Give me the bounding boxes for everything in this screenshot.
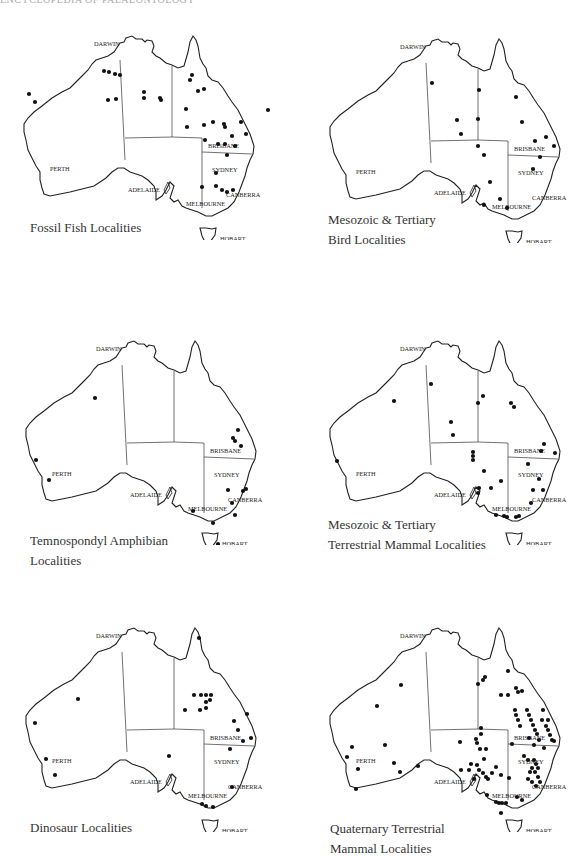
locality-dot [505, 515, 509, 519]
locality-dot [236, 428, 240, 432]
locality-dot [553, 451, 557, 455]
state-border [127, 442, 204, 443]
locality-dot [526, 758, 530, 762]
locality-dot [533, 139, 537, 143]
locality-dot [475, 763, 479, 767]
locality-dot [489, 486, 493, 490]
city-label-hobart: HOBART [222, 540, 248, 545]
city-label-brisbane: BRISBANE [210, 447, 241, 454]
locality-dot [211, 120, 215, 124]
city-label-perth: PERTH [52, 757, 72, 764]
locality-dot [200, 802, 204, 806]
caption-line-2: Mammal Localities [330, 839, 445, 857]
locality-dot [477, 88, 481, 92]
locality-dot [542, 442, 546, 446]
tasmania-outline [506, 820, 522, 832]
locality-dot [241, 739, 245, 743]
locality-dot [266, 108, 270, 112]
locality-dot [476, 144, 480, 148]
locality-dot [216, 142, 220, 146]
locality-dot [532, 758, 536, 762]
locality-dot [220, 188, 224, 192]
locality-dot [471, 458, 475, 462]
locality-dot [515, 795, 519, 799]
state-border [508, 155, 558, 157]
locality-dot [520, 689, 524, 693]
locality-dot [230, 134, 234, 138]
map-caption: Quaternary Terrestrial Mammal Localities [330, 819, 445, 857]
locality-dot [546, 718, 550, 722]
locality-dot [199, 693, 203, 697]
locality-dot [530, 780, 534, 784]
city-label-perth: PERTH [356, 470, 376, 477]
city-label-canberra: CANBERRA [226, 191, 261, 198]
locality-dot [214, 171, 218, 175]
locality-dot [482, 469, 486, 473]
locality-dot [183, 708, 187, 712]
locality-dot [482, 153, 486, 157]
locality-dot [142, 90, 146, 94]
locality-dot [211, 805, 215, 809]
state-border [122, 652, 127, 752]
locality-dot [532, 743, 536, 747]
tasmania-outline [200, 228, 216, 240]
locality-dot [184, 107, 188, 111]
locality-dot [498, 197, 502, 201]
city-label-sydney: SYDNEY [518, 169, 544, 176]
locality-dot [345, 755, 349, 759]
locality-dot [552, 739, 556, 743]
locality-dot [476, 491, 480, 495]
locality-dot [483, 675, 487, 679]
locality-dot [53, 773, 57, 777]
locality-dot [477, 486, 481, 490]
locality-dot [204, 804, 208, 808]
locality-dot [471, 454, 475, 458]
locality-dot [107, 70, 111, 74]
caption-line-2: Terrestrial Mammal Localities [328, 535, 486, 555]
city-label-hobart: HOBART [220, 235, 246, 240]
locality-dot [114, 97, 118, 101]
locality-dot [455, 118, 459, 122]
state-border [204, 457, 254, 459]
locality-dot [231, 188, 235, 192]
locality-dot [223, 142, 227, 146]
locality-dot [196, 89, 200, 93]
locality-dot [399, 683, 403, 687]
locality-dot [451, 433, 455, 437]
city-label-hobart: HOBART [526, 827, 552, 832]
locality-dot [474, 737, 478, 741]
australia-map: DARWINPERTHADELAIDEMELBOURNEBRISBANESYDN… [326, 335, 586, 545]
locality-dot [482, 203, 486, 207]
locality-dot [539, 449, 543, 453]
locality-dot [499, 773, 503, 777]
locality-dot [531, 167, 535, 171]
locality-dot [233, 144, 237, 148]
city-label-perth: PERTH [52, 470, 72, 477]
locality-dot [244, 132, 248, 136]
locality-dot [535, 732, 539, 736]
state-border [426, 652, 431, 752]
locality-dot [469, 762, 473, 766]
locality-dot [225, 153, 229, 157]
locality-dot [188, 78, 192, 82]
caption-line-1: Mesozoic & Tertiary [328, 515, 486, 535]
locality-dot [514, 95, 518, 99]
locality-dot [226, 488, 230, 492]
locality-dot [93, 396, 97, 400]
locality-dot [538, 155, 542, 159]
locality-dot [476, 401, 480, 405]
locality-dot [142, 96, 146, 100]
locality-dot [510, 742, 514, 746]
locality-dot [542, 746, 546, 750]
locality-dot [527, 713, 531, 717]
locality-dot [202, 123, 206, 127]
locality-dot [500, 801, 504, 805]
locality-dot [459, 768, 463, 772]
locality-dot [430, 81, 434, 85]
map-caption: Fossil Fish Localities [30, 218, 141, 238]
locality-dot [198, 708, 202, 712]
locality-dot [429, 382, 433, 386]
caption-line-2: Bird Localities [328, 230, 436, 250]
city-label-brisbane: BRISBANE [514, 145, 545, 152]
city-label-darwin: DARWIN [96, 345, 122, 352]
